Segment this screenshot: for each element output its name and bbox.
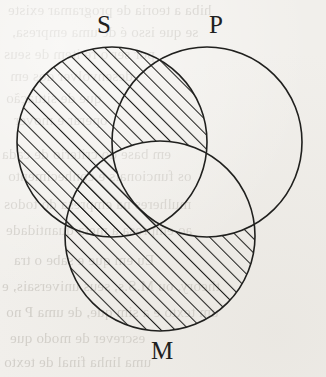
circle-label-m: M (145, 338, 179, 363)
scanned-page: hiba a teoria de programar existese que … (0, 0, 326, 377)
venn-diagram (0, 0, 326, 377)
circle-label-s: S (87, 12, 121, 37)
circle-label-p: P (199, 12, 233, 37)
shaded-region-m (0, 0, 326, 377)
